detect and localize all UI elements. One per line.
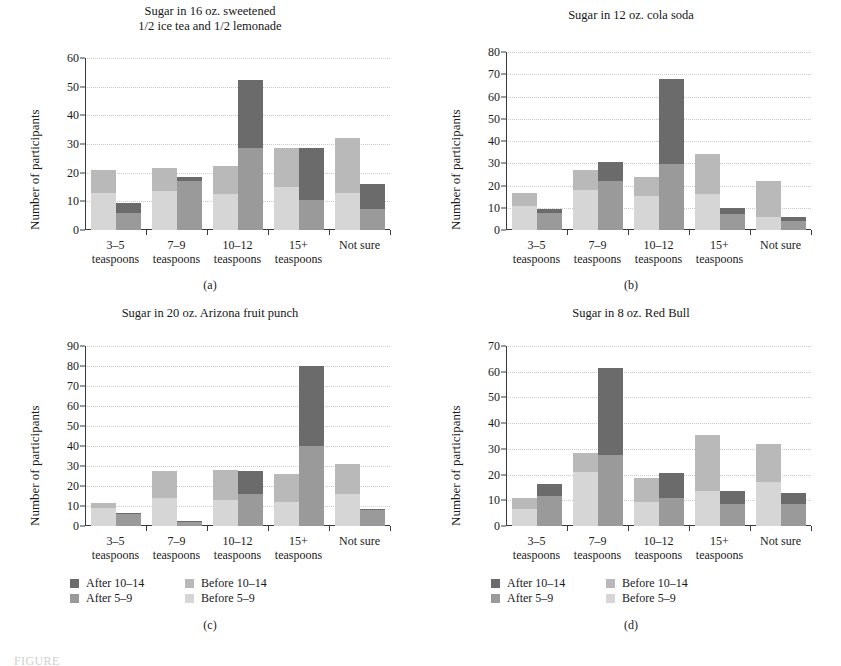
bar-after [238, 471, 263, 526]
legend-column-after: After 10–14After 5–9 [70, 576, 144, 606]
x-category-line1: Not sure [323, 534, 396, 548]
bar-segment [213, 470, 238, 500]
legend-column-before: Before 10–14Before 5–9 [606, 576, 688, 606]
bar-segment [756, 181, 781, 217]
bar-segment [781, 504, 806, 526]
legend-item-after_5_9[interactable]: After 5–9 [70, 591, 144, 606]
bar-segment [238, 494, 263, 526]
bar-segment [213, 194, 238, 230]
bar-group [85, 346, 146, 526]
y-axis-label: Number of participants [27, 109, 43, 230]
bar-after [299, 366, 324, 526]
bar-before [335, 138, 360, 230]
legend-item-before_5_9[interactable]: Before 5–9 [185, 591, 267, 606]
x-tick-mark [628, 526, 629, 531]
bar-after [238, 80, 263, 230]
bar-before [213, 166, 238, 230]
bar-group [207, 58, 268, 230]
x-category-line2: teaspoons [262, 548, 335, 562]
legend-label: Before 10–14 [622, 576, 688, 591]
bar-segment [756, 217, 781, 230]
bar-after [177, 177, 202, 230]
x-category-line2: teaspoons [683, 548, 756, 562]
panel-title-line: Sugar in 16 oz. sweetened [0, 4, 420, 19]
bar-after [659, 473, 684, 526]
bar-segment [781, 221, 806, 230]
legend-swatch-icon [606, 579, 615, 588]
bar-segment [756, 444, 781, 483]
legend-swatch-icon [491, 579, 500, 588]
y-tick-label: 50 [488, 111, 500, 126]
bar-group [146, 58, 207, 230]
panel-c: Sugar in 20 oz. Arizona fruit punch01020… [0, 298, 420, 598]
bar-before [573, 453, 598, 526]
x-category-line1: Not sure [744, 534, 817, 548]
bar-segment [720, 491, 745, 504]
y-tick-label: 30 [488, 441, 500, 456]
bar-segment [659, 473, 684, 497]
bar-group [207, 346, 268, 526]
legend-item-before_10_14[interactable]: Before 10–14 [185, 576, 267, 591]
y-tick-label: 20 [67, 165, 79, 180]
bar-segment [152, 168, 177, 191]
y-tick-label: 10 [488, 200, 500, 215]
legend-item-after_10_14[interactable]: After 10–14 [70, 576, 144, 591]
x-tick-mark [567, 526, 568, 531]
legend-item-after_10_14[interactable]: After 10–14 [491, 576, 565, 591]
x-tick-mark [146, 230, 147, 235]
bar-segment [213, 500, 238, 526]
x-tick-mark [811, 230, 812, 235]
legend: After 10–14After 5–9Before 10–14Before 5… [491, 576, 791, 608]
x-tick-mark [811, 526, 812, 531]
bar-before [756, 181, 781, 230]
y-tick-label: 0 [494, 519, 500, 534]
bar-segment [634, 502, 659, 526]
bar-group [689, 52, 750, 230]
x-category-label: Not sure [323, 534, 396, 548]
y-axis-label: Number of participants [448, 405, 464, 526]
x-tick-mark [329, 230, 330, 235]
bar-before [152, 168, 177, 230]
plot-area-b: 01020304050607080 [506, 52, 811, 230]
bar-after [116, 203, 141, 230]
bar-segment [573, 170, 598, 190]
bar-segment [177, 181, 202, 230]
legend-item-before_5_9[interactable]: Before 5–9 [606, 591, 688, 606]
panel-sublabel-d: (d) [421, 618, 841, 633]
bar-after [360, 184, 385, 230]
x-tick-mark [628, 230, 629, 235]
bar-segment [634, 196, 659, 230]
y-tick-label: 50 [67, 79, 79, 94]
panel-sublabel-b: (b) [421, 278, 841, 293]
bar-after [116, 513, 141, 526]
bar-before [91, 503, 116, 526]
bar-segment [274, 187, 299, 230]
bar-group [506, 346, 567, 526]
y-tick-label: 30 [67, 459, 79, 474]
bar-segment [299, 200, 324, 230]
x-category-line1: Not sure [323, 238, 396, 252]
bar-segment [756, 482, 781, 526]
legend-item-after_5_9[interactable]: After 5–9 [491, 591, 565, 606]
bar-before [274, 148, 299, 230]
bar-group [628, 346, 689, 526]
bar-before [274, 474, 299, 526]
x-tick-mark [750, 230, 751, 235]
x-category-line1: Not sure [744, 238, 817, 252]
bar-segment [659, 498, 684, 526]
x-tick-mark [207, 230, 208, 235]
panel-title-c: Sugar in 20 oz. Arizona fruit punch [0, 306, 420, 321]
bar-group [329, 58, 390, 230]
y-tick-label: 30 [67, 137, 79, 152]
y-tick-label: 50 [67, 419, 79, 434]
bar-before [634, 478, 659, 526]
bar-group [506, 52, 567, 230]
legend-label: After 10–14 [507, 576, 565, 591]
y-tick-label: 90 [67, 339, 79, 354]
bar-segment [116, 213, 141, 230]
plot-area-c: 0102030405060708090 [85, 346, 390, 526]
bar-segment [299, 446, 324, 526]
bar-segment [213, 166, 238, 195]
x-tick-mark [750, 526, 751, 531]
legend-item-before_10_14[interactable]: Before 10–14 [606, 576, 688, 591]
